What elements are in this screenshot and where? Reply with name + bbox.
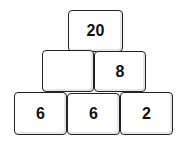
pyramid-block-top: 20 xyxy=(68,10,123,52)
pyramid-block-bottom-right: 2 xyxy=(120,92,173,135)
pyramid-block-bottom-middle: 6 xyxy=(67,93,120,135)
pyramid-block-middle-left-empty xyxy=(42,50,94,92)
pyramid-block-bottom-left: 6 xyxy=(14,92,67,135)
pyramid-block-middle-right: 8 xyxy=(94,51,146,92)
